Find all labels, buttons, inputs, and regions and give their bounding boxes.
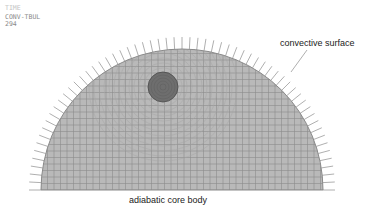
convection-arrow bbox=[29, 182, 41, 183]
convection-arrow bbox=[39, 135, 50, 139]
mesh-figure bbox=[0, 0, 365, 214]
convection-arrow bbox=[58, 100, 68, 107]
convection-arrow bbox=[120, 50, 125, 61]
convection-arrow bbox=[150, 40, 152, 52]
convection-arrow bbox=[259, 62, 266, 72]
convection-arrow bbox=[318, 150, 330, 153]
adiabatic-core-label: adiabatic core body bbox=[129, 195, 207, 205]
convection-arrow bbox=[265, 66, 272, 76]
convection-arrow bbox=[32, 158, 44, 160]
convection-arrow bbox=[296, 100, 306, 107]
convection-arrow bbox=[42, 128, 53, 133]
convection-arrow bbox=[246, 54, 251, 65]
convection-arrow bbox=[127, 47, 131, 58]
convection-arrow bbox=[54, 107, 64, 114]
convection-arrow bbox=[218, 42, 221, 54]
convection-arrow bbox=[314, 135, 325, 139]
semicircle-body bbox=[41, 49, 323, 190]
convection-arrow bbox=[63, 94, 72, 102]
label-pointer bbox=[291, 50, 307, 72]
convection-arrow bbox=[99, 62, 106, 72]
convection-arrow bbox=[74, 82, 82, 90]
convection-arrow bbox=[226, 44, 230, 55]
convection-arrow bbox=[31, 166, 43, 168]
convection-arrow bbox=[189, 37, 190, 49]
convection-arrow bbox=[30, 174, 42, 175]
convection-arrow bbox=[321, 166, 333, 168]
convection-arrow bbox=[36, 143, 47, 147]
convection-arrow bbox=[211, 40, 213, 52]
convection-arrow bbox=[135, 44, 139, 55]
convection-arrow bbox=[174, 37, 175, 49]
convection-arrow bbox=[311, 128, 322, 133]
convection-arrow bbox=[106, 57, 112, 67]
convection-arrow bbox=[316, 143, 327, 147]
convection-arrow bbox=[197, 38, 198, 50]
convection-arrow bbox=[204, 39, 206, 51]
convection-arrow bbox=[253, 57, 259, 67]
convection-arrow bbox=[34, 150, 46, 153]
convection-arrow bbox=[300, 107, 310, 114]
convection-arrow bbox=[308, 121, 319, 126]
convection-arrow bbox=[304, 114, 314, 120]
convection-arrow bbox=[287, 88, 296, 96]
convection-arrow bbox=[92, 66, 99, 76]
convection-arrow bbox=[86, 71, 94, 80]
convection-arrow bbox=[271, 71, 279, 80]
convection-arrow bbox=[142, 42, 145, 54]
convection-arrow bbox=[323, 182, 335, 183]
inclusion-core bbox=[148, 72, 178, 102]
convection-arrow bbox=[80, 76, 88, 85]
convection-arrow bbox=[233, 47, 237, 58]
convective-surface-label: convective surface bbox=[280, 38, 355, 48]
convection-arrow bbox=[276, 76, 284, 85]
convection-arrow bbox=[322, 174, 334, 175]
convection-arrow bbox=[320, 158, 332, 160]
convection-arrow bbox=[158, 39, 160, 51]
convection-arrow bbox=[113, 54, 118, 65]
convection-arrow bbox=[239, 50, 244, 61]
convection-arrow bbox=[282, 82, 290, 90]
convection-arrow bbox=[292, 94, 301, 102]
convection-arrow bbox=[166, 38, 167, 50]
convection-arrow bbox=[46, 121, 57, 126]
convection-arrow bbox=[68, 88, 77, 96]
convection-arrow bbox=[49, 114, 59, 120]
